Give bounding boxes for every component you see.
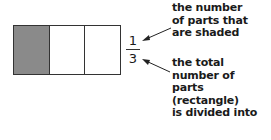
- label-line: is divided into: [172, 107, 257, 120]
- label-line: are shaded: [172, 27, 248, 40]
- label-line: the number: [172, 2, 248, 15]
- label-line: the total: [172, 57, 257, 70]
- label-line: parts: [172, 82, 257, 95]
- numerator-label: the number of parts that are shaded: [172, 2, 248, 40]
- denominator-label: the total number of parts (rectangle) is…: [172, 57, 257, 120]
- arrow-to-denominator-icon: [142, 59, 170, 72]
- arrow-to-numerator-icon: [142, 28, 171, 41]
